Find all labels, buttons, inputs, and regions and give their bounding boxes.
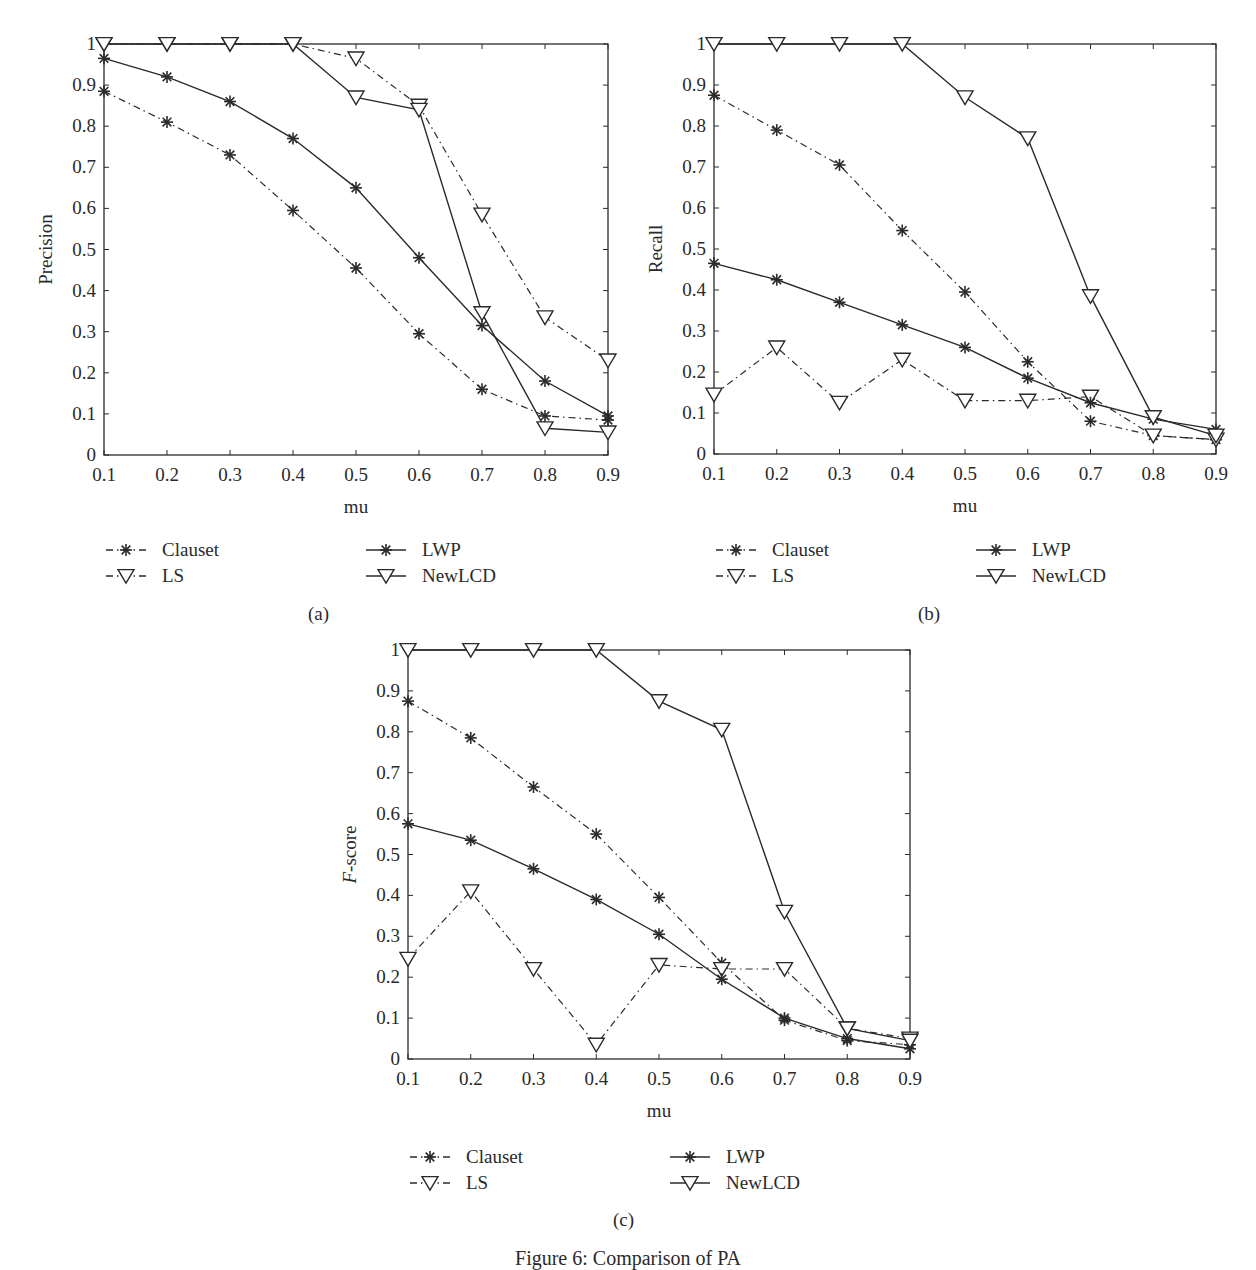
x-tick-label: 0.7 [773, 1068, 797, 1089]
asterisk-icon [730, 544, 742, 556]
legend-item-lwp: LWP [364, 539, 461, 561]
legend-item-clauset: Clauset [408, 1146, 523, 1168]
y-tick-label: 0.7 [682, 156, 706, 177]
triangle-down-icon [600, 426, 616, 440]
legend-label: Clauset [162, 539, 219, 561]
series-clauset [98, 85, 614, 426]
asterisk-icon [834, 296, 846, 308]
asterisk-icon [224, 96, 236, 108]
asterisk-icon [120, 544, 132, 556]
x-tick-label: 0.4 [281, 464, 305, 485]
x-tick-label: 0.3 [522, 1068, 546, 1089]
legend-swatch [364, 539, 408, 561]
legend-item-newlcd: NewLCD [364, 565, 496, 587]
y-axis-title: Recall [645, 225, 666, 274]
legend-swatch [668, 1172, 712, 1194]
asterisk-icon [476, 383, 488, 395]
y-tick-label: 0.5 [72, 239, 96, 260]
triangle-down-icon [832, 396, 848, 410]
triangle-down-icon [957, 91, 973, 105]
series-ls [706, 341, 1224, 447]
asterisk-icon [350, 262, 362, 274]
series-ls [400, 885, 918, 1052]
panel-c: 0.10.20.30.40.50.60.70.80.9mu00.10.20.30… [330, 620, 950, 1120]
y-tick-label: 1 [697, 33, 707, 54]
asterisk-icon [413, 252, 425, 264]
figure-caption: Figure 6: Comparison of PA [0, 1247, 1256, 1270]
x-tick-label: 0.3 [828, 463, 852, 484]
y-tick-label: 0.7 [72, 156, 96, 177]
y-tick-label: 0.1 [376, 1007, 400, 1028]
y-tick-label: 0.6 [682, 197, 706, 218]
asterisk-icon [465, 732, 477, 744]
x-tick-label: 0.3 [218, 464, 242, 485]
y-tick-label: 0.8 [376, 721, 400, 742]
triangle-down-icon [706, 388, 722, 402]
y-axis-title: Precision [35, 214, 56, 285]
y-tick-label: 0 [87, 444, 97, 465]
asterisk-icon [771, 274, 783, 286]
legend-item-ls: LS [408, 1172, 488, 1194]
triangle-down-icon [728, 570, 744, 584]
x-tick-label: 0.4 [584, 1068, 608, 1089]
legend-label: LS [162, 565, 184, 587]
asterisk-icon [424, 1151, 436, 1163]
legend-label: LS [772, 565, 794, 587]
triangle-down-icon [348, 52, 364, 66]
x-axis: 0.10.20.30.40.50.60.70.80.9mu [92, 44, 620, 517]
triangle-down-icon [600, 354, 616, 368]
legend-swatch [408, 1172, 452, 1194]
legend-label: NewLCD [422, 565, 496, 587]
x-tick-label: 0.2 [155, 464, 179, 485]
legend-swatch [974, 539, 1018, 561]
legend-swatch [364, 565, 408, 587]
x-tick-label: 0.5 [953, 463, 977, 484]
x-tick-label: 0.9 [898, 1068, 922, 1089]
series-newlcd [96, 38, 616, 440]
asterisk-icon [990, 544, 1002, 556]
legend-item-lwp: LWP [668, 1146, 765, 1168]
asterisk-icon [708, 89, 720, 101]
y-tick-label: 0 [391, 1048, 401, 1069]
triangle-down-icon [902, 1034, 918, 1048]
y-axis-title: F-score [339, 825, 360, 884]
y-axis: 00.10.20.30.40.50.60.70.80.91Recall [645, 33, 1216, 464]
y-tick-label: 0.4 [376, 884, 400, 905]
asterisk-icon [653, 891, 665, 903]
legend-label: LWP [1032, 539, 1071, 561]
x-axis-title: mu [953, 495, 978, 516]
fscore-chart: 0.10.20.30.40.50.60.70.80.9mu00.10.20.30… [330, 620, 950, 1120]
asterisk-icon [287, 133, 299, 145]
asterisk-icon [350, 182, 362, 194]
triangle-down-icon [651, 695, 667, 709]
x-tick-label: 0.1 [92, 464, 116, 485]
asterisk-icon [779, 1012, 791, 1024]
y-axis: 00.10.20.30.40.50.60.70.80.91F-score [339, 639, 910, 1069]
asterisk-icon [98, 52, 110, 64]
x-tick-label: 0.8 [1141, 463, 1165, 484]
triangle-down-icon [1020, 394, 1036, 408]
asterisk-icon [684, 1151, 696, 1163]
x-tick-label: 0.5 [647, 1068, 671, 1089]
x-axis-title: mu [344, 496, 369, 517]
series-lwp [402, 818, 916, 1055]
panel-label-c: (c) [613, 1209, 634, 1231]
asterisk-icon [653, 928, 665, 940]
asterisk-icon [716, 973, 728, 985]
y-tick-label: 0.5 [682, 238, 706, 259]
legend-label: NewLCD [1032, 565, 1106, 587]
precision-chart: 0.10.20.30.40.50.60.70.80.9mu00.10.20.30… [0, 0, 630, 520]
legend-label: LS [466, 1172, 488, 1194]
y-tick-label: 0.4 [682, 279, 706, 300]
x-tick-label: 0.2 [765, 463, 789, 484]
legend-swatch [668, 1146, 712, 1168]
legend-label: Clauset [772, 539, 829, 561]
x-tick-label: 0.8 [533, 464, 557, 485]
asterisk-icon [896, 225, 908, 237]
asterisk-icon [1085, 397, 1097, 409]
y-tick-label: 0.3 [376, 925, 400, 946]
legend-item-ls: LS [104, 565, 184, 587]
asterisk-icon [1022, 356, 1034, 368]
panel-b: 0.10.20.30.40.50.60.70.80.9mu00.10.20.30… [630, 0, 1256, 520]
triangle-down-icon [474, 307, 490, 321]
